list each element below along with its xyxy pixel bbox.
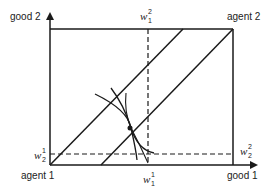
x-axis-label: good 1 bbox=[227, 171, 258, 181]
endowment-label-w2-2: w22 bbox=[240, 146, 247, 156]
endowment-label-w1-1: w11 bbox=[143, 174, 150, 184]
agent2-label: agent 2 bbox=[227, 12, 260, 22]
equilibrium-point bbox=[128, 126, 133, 131]
agent1-label: agent 1 bbox=[21, 171, 54, 181]
endowment-label-w1-2: w21 bbox=[140, 11, 147, 21]
endowment-label-w2-1: w12 bbox=[34, 150, 41, 160]
y-axis-label: good 2 bbox=[10, 12, 41, 22]
indifference-curve-agent1 bbox=[95, 94, 154, 153]
diagonal-line-b bbox=[101, 29, 233, 165]
